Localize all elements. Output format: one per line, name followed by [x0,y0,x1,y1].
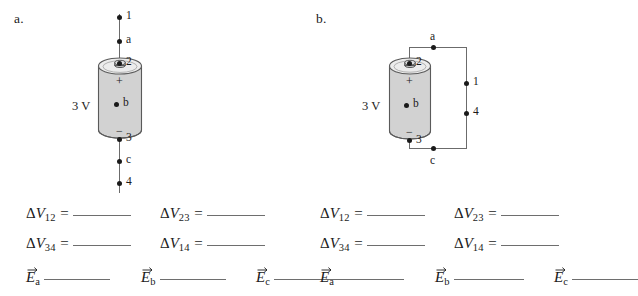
delta-symbol: Δ [320,235,330,251]
answer-blank-dv23-a[interactable] [207,215,265,216]
delta-symbol: Δ [160,235,170,251]
answer-blank-ea-a[interactable] [44,279,110,280]
node-b-a [431,45,436,50]
node-a-2 [117,61,122,66]
v-symbol: V [464,205,473,221]
node-a-a-label: a [126,33,131,45]
answer-blank-dv12-b[interactable] [367,215,425,216]
node-a-3 [117,137,122,142]
e-vector-a: E [320,266,329,285]
node-b-b-label: b [413,97,419,109]
figure-a: + − 3 V 1 a 2 b 3 c 4 [0,0,308,200]
answer-blank-dv14-a[interactable] [207,245,265,246]
node-b-3 [407,138,412,143]
node-b-3-label: 3 [416,133,422,145]
equation-row-b-1: ΔV12 = ΔV23 = [308,206,617,236]
equals-sign: = [351,205,363,221]
equations-b: ΔV12 = ΔV23 = ΔV34 = ΔV14 = Ea Eb Ec [308,198,617,296]
answer-blank-dv34-a[interactable] [73,245,131,246]
e-symbol: E [26,269,35,285]
equation-dv14-a: ΔV14 = [160,236,265,253]
e-vector-b: E [435,266,444,285]
e-vector-a: E [26,266,35,285]
subscript-12: 12 [339,212,350,223]
node-a-c-label: c [126,153,131,165]
subscript-34: 34 [45,242,56,253]
node-b-4-label: 4 [473,105,479,117]
v-symbol: V [330,235,339,251]
equation-ea-b: Ea [320,266,404,287]
node-b-1 [464,81,469,86]
v-symbol: V [170,235,179,251]
answer-blank-dv14-b[interactable] [501,245,559,246]
equation-dv12-a: ΔV12 = [26,206,131,223]
node-a-a [117,39,122,44]
panel-b: b. + − 3 V a 1 4 [308,0,617,296]
equation-row-a-1: ΔV12 = ΔV23 = [0,206,308,236]
node-b-c [431,146,436,151]
subscript-a: a [329,276,334,287]
v-symbol: V [36,235,45,251]
answer-blank-dv34-b[interactable] [367,245,425,246]
answer-blank-dv23-b[interactable] [501,215,559,216]
equation-dv23-a: ΔV23 = [160,206,265,223]
subscript-14: 14 [473,242,484,253]
equation-row-a-2: ΔV34 = ΔV14 = [0,236,308,266]
e-vector-c: E [554,266,563,285]
e-symbol: E [320,269,329,285]
e-symbol: E [256,269,265,285]
e-symbol: E [554,269,563,285]
equals-sign: = [485,205,497,221]
equation-ec-b: Ec [554,266,638,287]
e-vector-b: E [141,266,150,285]
equation-eb-b: Eb [435,266,524,287]
equals-sign: = [57,205,69,221]
node-b-a-label: a [430,30,435,42]
e-symbol: E [141,269,150,285]
battery-a-plus: + [116,74,123,89]
equation-dv12-b: ΔV12 = [320,206,425,223]
battery-a-voltage-label: 3 V [72,99,90,114]
delta-symbol: Δ [26,205,36,221]
answer-blank-dv12-a[interactable] [73,215,131,216]
wire-b-right [466,47,467,149]
answer-blank-ea-b[interactable] [338,279,404,280]
node-a-4 [117,181,122,186]
node-a-b [114,102,119,107]
node-b-2 [407,61,412,66]
equation-row-b-3: Ea Eb Ec [308,266,617,296]
equals-sign: = [191,205,203,221]
battery-b-plus: + [406,74,413,89]
answer-blank-eb-b[interactable] [454,279,524,280]
e-vector-c: E [256,266,265,285]
equation-dv34-b: ΔV34 = [320,236,425,253]
answer-blank-eb-a[interactable] [160,279,226,280]
wire-b-top [409,47,467,48]
battery-b-voltage-label: 3 V [362,99,380,114]
v-symbol: V [330,205,339,221]
node-a-4-label: 4 [126,175,132,187]
panel-a: a. + − 3 V 1 a 2 [0,0,308,296]
equations-a: ΔV12 = ΔV23 = ΔV34 = ΔV14 = Ea Eb Ec [0,198,308,296]
node-b-c-label: c [430,154,435,166]
node-b-b [404,103,409,108]
node-a-c [117,159,122,164]
e-symbol: E [435,269,444,285]
wire-b-bottom [409,148,467,149]
answer-blank-ec-b[interactable] [572,279,638,280]
equation-ea-a: Ea [26,266,110,287]
equation-eb-a: Eb [141,266,226,287]
delta-symbol: Δ [160,205,170,221]
v-symbol: V [464,235,473,251]
subscript-c: c [265,276,270,287]
equation-row-b-2: ΔV34 = ΔV14 = [308,236,617,266]
figure-b: + − 3 V a 1 4 c 2 b 3 [308,0,617,200]
subscript-34: 34 [339,242,350,253]
node-a-1-label: 1 [126,9,132,21]
equals-sign: = [191,235,203,251]
node-a-b-label: b [123,96,129,108]
equation-row-a-3: Ea Eb Ec [0,266,308,296]
subscript-14: 14 [179,242,190,253]
node-a-2-label: 2 [126,55,132,67]
delta-symbol: Δ [454,235,464,251]
